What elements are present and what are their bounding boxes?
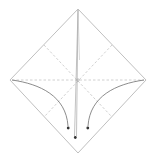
arrowhead-icon — [74, 136, 77, 139]
arrowhead-icon — [67, 127, 70, 130]
origami-diagram — [0, 0, 156, 161]
arrowhead-icon — [86, 127, 89, 130]
